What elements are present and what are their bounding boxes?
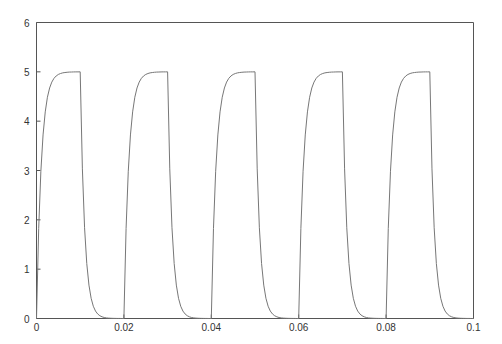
- axes-frame: [37, 23, 474, 319]
- y-tick-label: 6: [24, 18, 30, 29]
- y-tick-label: 3: [24, 166, 30, 177]
- y-tick-label: 2: [24, 215, 30, 226]
- chart: 0123456 00.020.040.060.080.1: [0, 0, 502, 344]
- x-tick-label: 0.02: [114, 322, 134, 333]
- x-tick-label: 0.06: [289, 322, 309, 333]
- x-tick-label: 0.08: [376, 322, 396, 333]
- x-axis-ticks: 00.020.040.060.080.1: [34, 315, 481, 333]
- x-tick-label: 0.1: [467, 322, 481, 333]
- y-tick-label: 1: [24, 264, 30, 275]
- y-tick-label: 5: [24, 67, 30, 78]
- response-line: [37, 72, 474, 319]
- y-tick-label: 4: [24, 116, 30, 127]
- y-tick-label: 0: [24, 314, 30, 325]
- plot-area: 0123456 00.020.040.060.080.1: [24, 18, 481, 333]
- y-axis-ticks: 0123456: [24, 18, 41, 325]
- x-tick-label: 0.04: [202, 322, 222, 333]
- x-tick-label: 0: [34, 322, 40, 333]
